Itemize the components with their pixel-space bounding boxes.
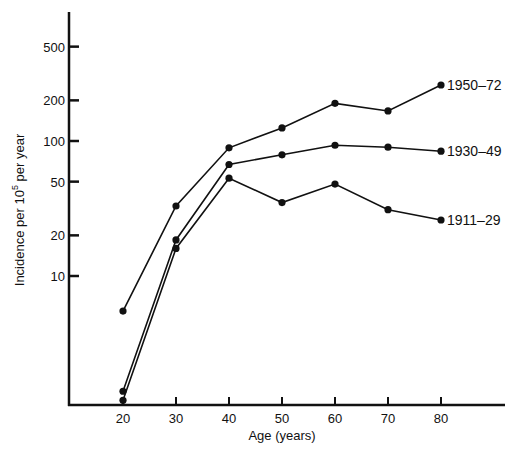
x-tick-label: 50: [275, 411, 289, 426]
y-axis: 500200100502010: [43, 12, 79, 406]
data-point: [119, 307, 126, 314]
series-label: 1911–29: [447, 212, 501, 228]
x-tick-label: 20: [116, 411, 130, 426]
data-point: [331, 180, 338, 187]
y-tick-label: 500: [43, 40, 65, 55]
x-tick-label: 30: [169, 411, 183, 426]
y-tick-label: 200: [43, 93, 65, 108]
x-tick-label: 70: [381, 411, 395, 426]
data-point: [225, 175, 232, 182]
data-point: [172, 245, 179, 252]
x-axis: 20304050607080: [68, 397, 505, 426]
series-line: [123, 145, 441, 391]
data-point: [384, 144, 391, 151]
x-tick-label: 80: [434, 411, 448, 426]
series-layer: 1950–721930–491911–29: [119, 77, 501, 404]
data-point: [278, 151, 285, 158]
data-point: [437, 148, 444, 155]
y-tick-label: 10: [51, 269, 65, 284]
data-point: [225, 161, 232, 168]
data-point: [437, 216, 444, 223]
data-point: [172, 202, 179, 209]
y-axis-title: Incidence per 105 per year: [10, 133, 27, 286]
line-chart: 500200100502010 20304050607080 1950–7219…: [0, 0, 514, 450]
series-1: 1930–49: [119, 142, 501, 395]
data-point: [384, 107, 391, 114]
x-axis-title: Age (years): [248, 428, 315, 443]
data-point: [331, 100, 338, 107]
x-tick-label: 60: [328, 411, 342, 426]
series-label: 1930–49: [447, 143, 502, 159]
series-label: 1950–72: [447, 77, 502, 93]
data-point: [278, 199, 285, 206]
x-tick-label: 40: [222, 411, 236, 426]
data-point: [384, 206, 391, 213]
y-tick-label: 50: [51, 175, 65, 190]
data-point: [172, 236, 179, 243]
y-tick-label: 20: [51, 228, 65, 243]
series-line: [123, 85, 441, 311]
data-point: [278, 124, 285, 131]
series-line: [123, 178, 441, 400]
data-point: [119, 397, 126, 404]
data-point: [331, 142, 338, 149]
series-0: 1950–72: [119, 77, 501, 315]
data-point: [225, 144, 232, 151]
data-point: [437, 81, 444, 88]
y-tick-label: 100: [43, 134, 65, 149]
